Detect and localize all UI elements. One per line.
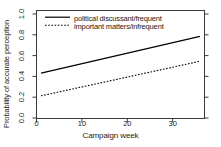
y-tick-label-5: 1.0 (14, 8, 28, 20)
x-tick-label-0: 0 (27, 119, 47, 128)
y-tick-label-1-text: 0.2 (17, 92, 26, 102)
y-axis-title-text: Probability of accurate perception (2, 20, 11, 128)
y-tick-label-0-text: 0.0 (17, 113, 26, 123)
chart-figure: Probability of accurate perception Campa… (0, 0, 221, 147)
y-tick-label-2: 0.4 (14, 70, 28, 82)
y-tick-label-4: 0.8 (14, 29, 28, 41)
legend-label-1: important matters/infrequent (74, 22, 164, 31)
y-tick-label-3-text: 0.6 (17, 50, 26, 60)
x-axis-title-text: Campaign week (82, 131, 138, 140)
y-tick-label-3: 0.6 (14, 50, 28, 62)
x-tick-label-1: 10 (72, 119, 92, 128)
x-tick-label-3: 30 (163, 119, 183, 128)
y-tick-label-1: 0.2 (14, 91, 28, 103)
x-tick-label-2: 20 (117, 119, 137, 128)
y-tick-label-4-text: 0.8 (17, 30, 26, 40)
y-tick-label-5-text: 1.0 (17, 9, 26, 19)
y-axis-title: Probability of accurate perception (0, 0, 12, 147)
x-axis-title: Campaign week (0, 131, 221, 140)
y-tick-label-2-text: 0.4 (17, 71, 26, 81)
